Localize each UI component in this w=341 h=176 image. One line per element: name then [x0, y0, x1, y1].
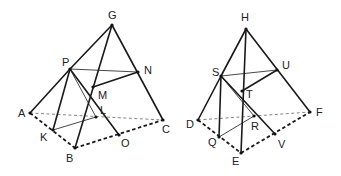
point-V — [273, 132, 276, 135]
label-R: R — [251, 120, 259, 132]
label-K: K — [40, 131, 48, 143]
label-Q: Q — [208, 136, 217, 148]
point-L — [94, 115, 97, 118]
label-G: G — [108, 9, 117, 21]
tetrahedron-G-ABC: GPNMALCKOB — [18, 9, 170, 164]
label-V: V — [278, 138, 286, 150]
point-H — [244, 27, 247, 30]
geometry-diagram: GPNMALCKOBHSUTDRFQVE — [0, 0, 341, 176]
label-E: E — [232, 155, 239, 167]
label-M: M — [98, 89, 107, 101]
point-T — [240, 89, 243, 92]
segment-PO-edge — [70, 69, 119, 135]
segment-QR-thin — [219, 116, 254, 137]
point-B — [73, 146, 76, 149]
point-Q — [217, 135, 220, 138]
point-F — [308, 110, 311, 113]
point-R — [252, 114, 255, 117]
label-D: D — [186, 118, 194, 130]
point-S — [219, 74, 222, 77]
label-O: O — [121, 137, 130, 149]
point-M — [91, 85, 94, 88]
label-P: P — [62, 56, 69, 68]
point-E — [239, 151, 242, 154]
segment-HS-edge — [221, 29, 246, 76]
segment-KL-thin — [53, 117, 96, 130]
label-H: H — [241, 11, 249, 23]
label-A: A — [18, 107, 26, 119]
label-S: S — [212, 66, 219, 78]
segment-PN-thin — [70, 69, 138, 72]
label-T: T — [246, 88, 253, 100]
segment-SD-edge — [198, 76, 221, 120]
label-N: N — [144, 64, 152, 76]
label-F: F — [316, 106, 323, 118]
segment-SQ-edge — [219, 76, 221, 137]
segment-MN-edge — [93, 72, 138, 87]
point-N — [136, 70, 139, 73]
point-C — [161, 118, 164, 121]
label-C: C — [162, 123, 170, 135]
label-B: B — [66, 152, 73, 164]
point-D — [196, 118, 199, 121]
point-G — [110, 23, 113, 26]
label-U: U — [282, 59, 290, 71]
tetrahedron-H-DEF: HSUTDRFQVE — [186, 11, 323, 167]
point-A — [28, 111, 31, 114]
point-U — [275, 68, 278, 71]
point-K — [51, 128, 54, 131]
label-L: L — [100, 104, 106, 116]
segment-SV-edge — [221, 76, 275, 134]
